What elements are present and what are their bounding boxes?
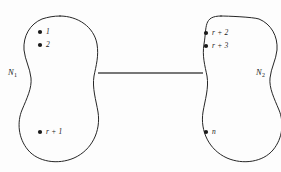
node-label-r-plus-1: r + 1 [46, 128, 62, 136]
node-label-n: n [212, 128, 216, 136]
node-dot-2 [38, 43, 42, 47]
node-dot-r3 [204, 44, 208, 48]
region-outline-left [19, 16, 99, 162]
region-label-n2: N2 [256, 68, 265, 77]
figure-canvas [0, 0, 281, 172]
node-dot-1 [38, 30, 42, 34]
node-dot-r1 [38, 130, 42, 134]
region-label-n1: N1 [8, 68, 17, 77]
region-outline-right [202, 16, 281, 162]
network-partition-figure: 1 2 r + 1 r + 2 r + 3 n N1 N2 [0, 0, 281, 172]
region-label-n1-subscript: 1 [14, 72, 17, 78]
node-label-2: 2 [46, 41, 50, 49]
region-label-n1-base: N [8, 67, 14, 77]
node-dot-r2 [204, 31, 208, 35]
node-label-1: 1 [46, 28, 50, 36]
node-label-r-plus-2: r + 2 [212, 29, 228, 37]
region-label-n2-base: N [256, 67, 262, 77]
node-dot-n [204, 130, 208, 134]
node-label-r-plus-3: r + 3 [212, 42, 228, 50]
region-label-n2-subscript: 2 [262, 72, 265, 78]
